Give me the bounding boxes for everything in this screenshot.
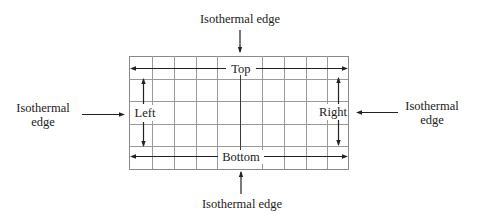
top-label: Top — [231, 62, 250, 76]
bottom-label: Bottom — [222, 150, 260, 164]
bottom-isothermal-edge: Isothermal edge — [202, 172, 283, 211]
bottom-isothermal-label: Isothermal edge — [202, 197, 283, 211]
left-isothermal-label-line1: Isothermal — [16, 101, 70, 115]
right-isothermal-edge: Isothermal edge — [357, 99, 459, 127]
top-isothermal-label: Isothermal edge — [200, 12, 281, 26]
right-label: Right — [319, 105, 347, 119]
right-isothermal-label-line1: Isothermal — [405, 99, 459, 113]
isothermal-edges-diagram: Top Bottom Left Right Isothermal edge Is… — [0, 0, 481, 219]
bottom-span: Bottom — [131, 150, 347, 164]
grid-horizontal-lines — [129, 80, 348, 147]
right-isothermal-label-line2: edge — [420, 113, 444, 127]
top-isothermal-edge: Isothermal edge — [200, 12, 281, 52]
left-isothermal-label-line2: edge — [31, 115, 55, 129]
left-label: Left — [135, 106, 156, 120]
left-isothermal-edge: Isothermal edge — [16, 101, 124, 129]
top-span: Top — [131, 61, 347, 76]
left-span: Left — [131, 79, 157, 146]
right-span: Right — [318, 78, 348, 145]
